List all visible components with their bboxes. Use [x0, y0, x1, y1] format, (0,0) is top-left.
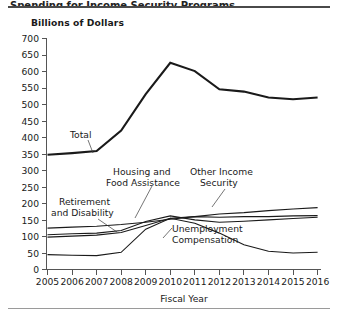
annotation-label: Compensation — [172, 234, 238, 245]
bottom-divider-rule — [8, 308, 330, 309]
x-tick-label: 2006 — [60, 276, 84, 287]
x-tick-label: 2016 — [306, 276, 330, 287]
y-axis-tick-labels: 700 650 600 550 500 450 400 350 300 250 … — [21, 33, 39, 275]
annotation-label: Food Assistance — [106, 177, 180, 188]
y-tick-label: 0 — [33, 264, 39, 275]
x-axis-ticks — [48, 270, 318, 275]
y-tick-label: 200 — [21, 198, 39, 209]
annotation-housing-and-food-assistance: Housing and Food Assistance — [106, 166, 180, 188]
annotation-label: Unemployment — [172, 223, 243, 234]
annotation-total: Total — [69, 129, 91, 140]
y-tick-label: 150 — [21, 215, 39, 226]
x-tick-label: 2013 — [232, 276, 256, 287]
annotation-label: and Disability — [51, 207, 114, 218]
x-tick-label: 2015 — [281, 276, 305, 287]
y-tick-label: 50 — [27, 248, 39, 259]
y-tick-label: 550 — [21, 82, 39, 93]
y-axis-ticks — [42, 39, 47, 270]
x-tick-label: 2008 — [110, 276, 134, 287]
annotation-other-income-security: Other Income Security — [190, 166, 253, 188]
x-tick-label: 2009 — [134, 276, 158, 287]
leader-line-other-income-security — [212, 189, 225, 207]
x-axis-title: Fiscal Year — [160, 293, 208, 304]
y-tick-label: 600 — [21, 66, 39, 77]
annotation-label: Housing and — [113, 166, 171, 177]
y-tick-label: 450 — [21, 116, 39, 127]
x-tick-label: 2012 — [208, 276, 231, 287]
x-axis-tick-labels: 2005 2006 2007 2008 2009 2010 2011 2012 … — [36, 276, 330, 287]
annotation-retirement-and-disability: Retirement and Disability — [51, 196, 114, 218]
x-tick-label: 2014 — [257, 276, 281, 287]
x-tick-label: 2010 — [159, 276, 183, 287]
x-tick-label: 2005 — [36, 276, 60, 287]
annotation-label: Security — [200, 177, 238, 188]
x-tick-label: 2007 — [85, 276, 109, 287]
y-tick-label: 350 — [21, 149, 39, 160]
x-tick-label: 2011 — [183, 276, 206, 287]
leader-line-housing-and-food-assistance — [135, 186, 152, 218]
y-tick-label: 300 — [21, 165, 39, 176]
annotation-unemployment-compensation: Unemployment Compensation — [172, 223, 243, 245]
annotation-label: Other Income — [190, 166, 253, 177]
y-tick-label: 650 — [21, 49, 39, 60]
line-chart-plot: 700 650 600 550 500 450 400 350 300 250 … — [0, 0, 338, 315]
y-tick-label: 700 — [21, 33, 39, 44]
y-tick-label: 100 — [21, 231, 39, 242]
chart-figure: Spending for Income Security Programs Bi… — [0, 0, 338, 315]
annotation-label: Total — [69, 129, 91, 140]
leader-line-unemployment-compensation — [163, 228, 172, 238]
y-tick-label: 500 — [21, 99, 39, 110]
annotation-label: Retirement — [59, 196, 110, 207]
y-tick-label: 250 — [21, 182, 39, 193]
y-tick-label: 400 — [21, 132, 39, 143]
